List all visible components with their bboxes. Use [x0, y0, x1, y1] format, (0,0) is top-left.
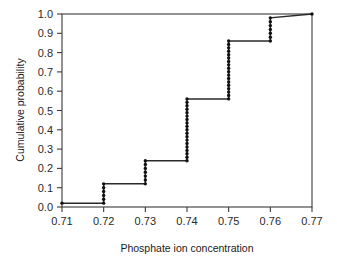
y-tick-label: 0.6 — [38, 85, 53, 97]
y-tick-label: 0.5 — [38, 105, 53, 117]
x-tick-label: 0.76 — [260, 215, 281, 227]
observation-dot — [185, 108, 188, 111]
observation-dot — [185, 145, 188, 148]
y-tick-label: 0.4 — [38, 124, 53, 136]
observation-dot — [144, 171, 147, 174]
observation-dot — [269, 20, 272, 23]
observation-dot — [102, 198, 105, 201]
observation-dot — [185, 159, 188, 162]
observation-dot — [227, 77, 230, 80]
y-tick-label: 0.2 — [38, 162, 53, 174]
observation-dot — [185, 101, 188, 104]
chart-canvas: 0.710.720.730.740.750.760.77 0.00.10.20.… — [0, 0, 337, 263]
observation-dot — [310, 12, 313, 15]
observation-dot — [227, 70, 230, 73]
observation-dot — [227, 63, 230, 66]
observation-dot — [144, 178, 147, 181]
observation-dot — [144, 159, 147, 162]
x-tick-label: 0.74 — [176, 215, 197, 227]
observation-dot — [227, 73, 230, 76]
y-tick-label: 0.8 — [38, 47, 53, 59]
observation-dot — [185, 128, 188, 131]
observation-dot — [185, 152, 188, 155]
observation-dot — [269, 39, 272, 42]
observation-dot — [185, 135, 188, 138]
y-tick-label: 1.0 — [38, 8, 53, 20]
observation-dot — [144, 182, 147, 185]
observation-dot — [144, 174, 147, 177]
observation-dot — [269, 24, 272, 27]
observation-dot — [227, 94, 230, 97]
observation-dot — [185, 121, 188, 124]
observation-dot — [227, 39, 230, 42]
observation-dot — [185, 132, 188, 135]
observation-dot — [269, 35, 272, 38]
observation-dot — [60, 201, 63, 204]
y-tick-label: 0.3 — [38, 143, 53, 155]
x-tick-label: 0.75 — [218, 215, 239, 227]
observation-dot — [185, 118, 188, 121]
observation-dot — [227, 67, 230, 70]
y-tick-label: 0.9 — [38, 27, 53, 39]
observation-dot — [185, 111, 188, 114]
observation-dot — [185, 149, 188, 152]
y-axis-title: Cumulative probability — [14, 58, 26, 162]
observation-dot — [227, 97, 230, 100]
observation-dot — [185, 104, 188, 107]
x-axis-title: Phosphate ion concentration — [120, 242, 253, 254]
observation-dot — [227, 80, 230, 83]
observation-dot — [227, 90, 230, 93]
observation-dot — [185, 142, 188, 145]
y-tick-label: 0.0 — [38, 201, 53, 213]
x-tick-label: 0.71 — [51, 215, 72, 227]
observation-dot — [102, 182, 105, 185]
observation-dot — [102, 201, 105, 204]
observation-dot — [227, 43, 230, 46]
observation-dot — [185, 125, 188, 128]
observation-dot — [227, 53, 230, 56]
observation-dot — [144, 167, 147, 170]
observation-dot — [227, 46, 230, 49]
observation-dot — [144, 163, 147, 166]
x-tick-label: 0.73 — [135, 215, 156, 227]
observation-dot — [102, 186, 105, 189]
observation-dot — [102, 194, 105, 197]
x-tick-label: 0.72 — [93, 215, 114, 227]
ecdf-chart: 0.710.720.730.740.750.760.77 0.00.10.20.… — [0, 0, 337, 263]
y-tick-label: 0.7 — [38, 66, 53, 78]
observation-dot — [185, 114, 188, 117]
observation-dot — [227, 60, 230, 63]
observation-dot — [269, 16, 272, 19]
observation-dot — [227, 87, 230, 90]
observation-dot — [269, 32, 272, 35]
observation-dot — [185, 97, 188, 100]
observation-dot — [269, 28, 272, 31]
observation-dot — [227, 50, 230, 53]
observation-dot — [102, 190, 105, 193]
observation-dot — [185, 156, 188, 159]
y-axis-tick-labels: 0.00.10.20.30.40.50.60.70.80.91.0 — [38, 8, 53, 213]
observation-dot — [227, 56, 230, 59]
x-tick-label: 0.77 — [301, 215, 322, 227]
y-tick-label: 0.1 — [38, 182, 53, 194]
observation-dot — [227, 84, 230, 87]
observation-dot — [185, 138, 188, 141]
